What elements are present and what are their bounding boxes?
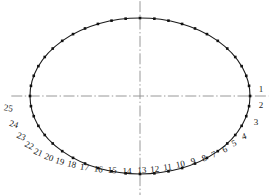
node-label-3: 3 xyxy=(254,117,259,127)
node-label-4: 4 xyxy=(240,131,248,142)
node-label-13: 13 xyxy=(137,165,147,175)
node-marker xyxy=(124,17,127,20)
node-marker xyxy=(29,95,32,98)
node-marker xyxy=(139,17,142,20)
node-label-25: 25 xyxy=(3,102,14,113)
ellipse-diagram-canvas: 1234567891011121314151617181920212223242… xyxy=(0,0,278,195)
node-label-24: 24 xyxy=(8,118,20,130)
node-marker xyxy=(245,75,248,78)
node-marker xyxy=(240,125,243,128)
node-label-1: 1 xyxy=(259,84,264,94)
node-marker xyxy=(153,17,156,20)
node-label-15: 15 xyxy=(107,165,117,176)
node-marker xyxy=(72,33,75,36)
node-marker xyxy=(194,27,197,30)
node-labels-group: 1234567891011121314151617181920212223242… xyxy=(3,84,263,176)
node-label-10: 10 xyxy=(175,158,186,170)
node-marker xyxy=(248,85,251,88)
node-marker xyxy=(32,115,35,118)
node-marker xyxy=(181,23,184,26)
node-label-2: 2 xyxy=(259,100,264,110)
node-marker xyxy=(245,115,248,118)
node-marker xyxy=(51,47,54,50)
node-marker xyxy=(32,75,35,78)
node-marker xyxy=(248,105,251,108)
node-marker xyxy=(37,125,40,128)
node-label-11: 11 xyxy=(163,161,173,172)
node-marker xyxy=(51,142,54,145)
node-marker xyxy=(240,65,243,68)
node-marker xyxy=(216,150,219,153)
node-marker xyxy=(226,47,229,50)
node-marker xyxy=(249,95,252,98)
node-marker xyxy=(216,40,219,43)
node-marker xyxy=(37,65,40,68)
node-marker xyxy=(110,19,113,22)
node-marker xyxy=(61,150,64,153)
node-marker xyxy=(30,85,33,88)
node-label-16: 16 xyxy=(93,164,104,175)
node-marker xyxy=(43,56,46,59)
node-marker xyxy=(97,23,100,26)
node-marker xyxy=(167,19,170,22)
node-label-6: 6 xyxy=(220,144,229,155)
node-label-12: 12 xyxy=(150,164,160,175)
node-marker xyxy=(234,56,237,59)
node-marker xyxy=(84,27,87,30)
node-marker xyxy=(43,134,46,137)
node-marker xyxy=(61,40,64,43)
node-label-21: 21 xyxy=(32,146,44,159)
node-marker xyxy=(226,142,229,145)
node-marker xyxy=(206,33,209,36)
node-label-14: 14 xyxy=(123,166,133,176)
node-label-19: 19 xyxy=(54,155,66,167)
node-label-18: 18 xyxy=(66,158,78,170)
node-marker xyxy=(234,134,237,137)
ellipse-figure: 1234567891011121314151617181920212223242… xyxy=(0,0,278,195)
node-label-20: 20 xyxy=(43,151,55,164)
node-label-17: 17 xyxy=(79,161,90,172)
node-label-5: 5 xyxy=(230,138,238,149)
node-marker xyxy=(30,105,33,108)
